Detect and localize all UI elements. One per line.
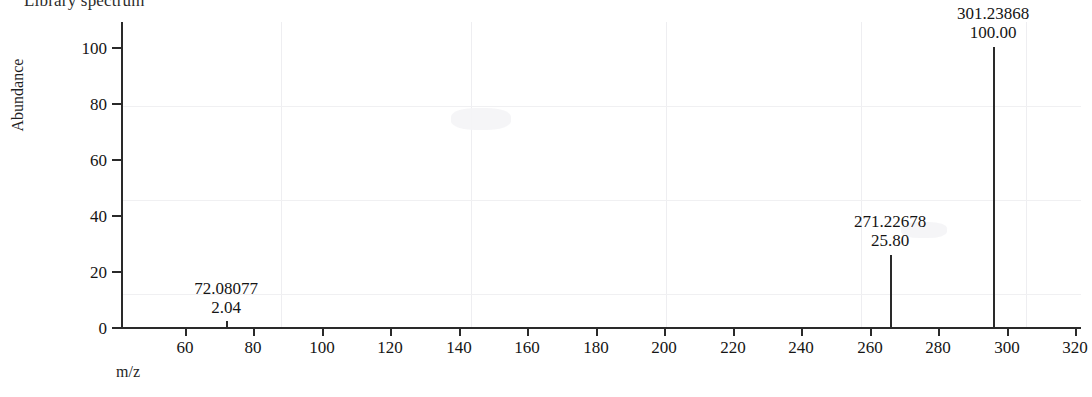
y-tick-label: 40 [49,208,107,225]
x-tick-label: 160 [497,339,557,356]
scan-artifact [861,22,862,327]
x-tick [938,327,940,336]
x-tick [596,327,598,336]
x-tick [390,327,392,336]
x-tick-label: 100 [292,339,352,356]
y-tick-label: 0 [49,320,107,337]
x-tick [1075,327,1077,336]
x-tick [664,327,666,336]
y-tick-label: 80 [49,96,107,113]
x-tick [459,327,461,336]
scan-artifact [1026,22,1027,327]
peak-annotation: 271.22678 25.80 [810,212,970,250]
x-tick [733,327,735,336]
x-tick [322,327,324,336]
spectrum-peak [890,255,892,327]
x-axis-title: m/z [116,363,140,381]
scan-artifact [471,22,472,327]
x-axis-line [115,327,1081,329]
spectrum-peak [993,47,995,327]
x-tick-label: 320 [1045,339,1092,356]
y-axis-line [121,22,123,327]
x-tick [253,327,255,336]
y-tick [112,159,121,161]
peak-intensity-label: 25.80 [810,231,970,250]
peak-intensity-label: 2.04 [146,298,306,317]
scan-artifact [121,106,1081,107]
scan-artifact [451,108,511,130]
peak-annotation: 301.23868 100.00 [913,4,1073,42]
peak-mz-label: 72.08077 [146,279,306,298]
peak-annotation: 72.08077 2.04 [146,279,306,317]
x-tick-label: 220 [703,339,763,356]
x-tick-label: 300 [977,339,1037,356]
spectrum-peak [226,321,228,327]
y-tick [112,327,121,329]
x-tick-label: 240 [771,339,831,356]
x-tick-label: 260 [840,339,900,356]
x-tick-label: 280 [908,339,968,356]
y-tick [112,271,121,273]
plot-area: 0 20 40 60 80 100 60 80 100 120 140 160 … [121,22,1081,327]
x-tick-label: 180 [566,339,626,356]
x-tick-label: 60 [155,339,215,356]
x-tick-label: 80 [223,339,283,356]
y-tick [112,47,121,49]
chart-title: Library spectrum [24,0,145,11]
x-tick [801,327,803,336]
x-tick [870,327,872,336]
scan-artifact [121,200,1081,201]
x-tick [1007,327,1009,336]
x-tick [185,327,187,336]
y-tick-label: 20 [49,264,107,281]
x-tick [527,327,529,336]
y-tick-label: 100 [49,40,107,57]
y-axis-title: Abundance [9,45,27,145]
x-tick-label: 140 [429,339,489,356]
x-tick-label: 200 [634,339,694,356]
peak-mz-label: 271.22678 [810,212,970,231]
peak-mz-label: 301.23868 [913,4,1073,23]
scan-artifact [666,22,667,327]
y-tick [112,103,121,105]
peak-intensity-label: 100.00 [913,23,1073,42]
x-tick-label: 120 [360,339,420,356]
y-tick [112,215,121,217]
y-tick-label: 60 [49,152,107,169]
